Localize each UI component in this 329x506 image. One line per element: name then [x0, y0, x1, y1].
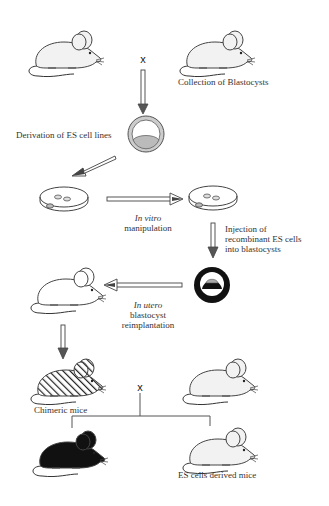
- label-injection-1: Injection of: [225, 224, 267, 234]
- label-derivation: Derivation of ES cell lines: [16, 130, 111, 140]
- label-reimplantation: reimplantation: [103, 320, 193, 330]
- label-manipulation: manipulation: [108, 223, 188, 233]
- mouse-mate: [183, 359, 258, 405]
- arrow-down-2: [208, 223, 218, 258]
- arrow-diagonal: [72, 156, 116, 176]
- mouse-parent-1: [29, 31, 104, 77]
- label-blastocyst: blastocyst: [103, 310, 193, 320]
- mouse-foster: [31, 268, 106, 314]
- label-in-vitro: In vitro: [118, 213, 178, 223]
- mouse-chimeric: [31, 359, 106, 405]
- offspring-bracket: [72, 393, 210, 428]
- arrow-right: [107, 193, 183, 205]
- label-chimeric: Chimeric mice: [34, 405, 87, 415]
- cross-symbol-bottom: x: [137, 381, 143, 393]
- label-es-derived: ES cells derived mice: [178, 470, 256, 480]
- petri-dish-1: [40, 187, 88, 211]
- label-injection-3: into blastocysts: [225, 244, 281, 254]
- cross-symbol-top: x: [140, 53, 146, 65]
- blastocyst-1: [128, 116, 164, 152]
- mouse-parent-2: [180, 31, 255, 77]
- label-injection-2: recombinant ES cells: [225, 234, 301, 244]
- arrow-left: [104, 279, 182, 291]
- mouse-es-derived: [183, 428, 258, 474]
- petri-dish-2: [189, 186, 237, 210]
- label-in-utero: In utero: [118, 300, 178, 310]
- label-collection: Collection of Blastocysts: [178, 77, 269, 87]
- arrow-down-1: [138, 70, 148, 114]
- blastocyst-2: [194, 267, 230, 303]
- mouse-black: [33, 431, 108, 477]
- arrow-down-3: [58, 325, 68, 359]
